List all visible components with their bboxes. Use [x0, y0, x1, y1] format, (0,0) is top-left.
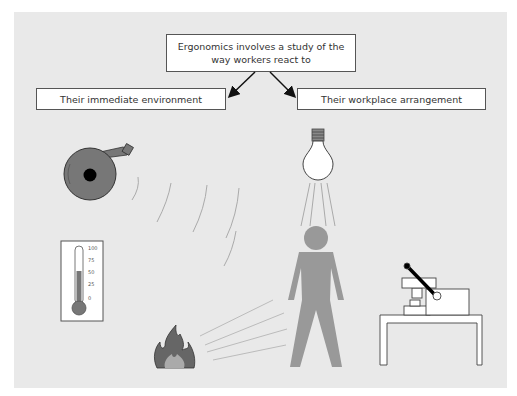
thermometer-tick-0: 0 [88, 295, 91, 301]
thermometer-icon: 100 75 50 25 0 [61, 241, 103, 321]
thermometer-tick-50: 50 [88, 269, 94, 275]
worker-figure-icon [288, 226, 344, 367]
thermometer-tick-75: 75 [88, 257, 94, 263]
sound-waves-icon [132, 177, 239, 266]
bell-icon [64, 144, 133, 200]
fire-icon [154, 325, 194, 368]
arrow-right-icon [270, 72, 294, 96]
heat-rays-icon [200, 300, 287, 360]
machine-bench-icon [380, 263, 482, 365]
thermometer-tick-25: 25 [88, 281, 94, 287]
light-rays-icon [301, 183, 335, 226]
arrow-left-icon [230, 72, 255, 96]
light-bulb-icon [303, 129, 333, 180]
illustration-layer: 100 75 50 25 0 [0, 0, 517, 396]
thermometer-tick-100: 100 [88, 245, 98, 251]
